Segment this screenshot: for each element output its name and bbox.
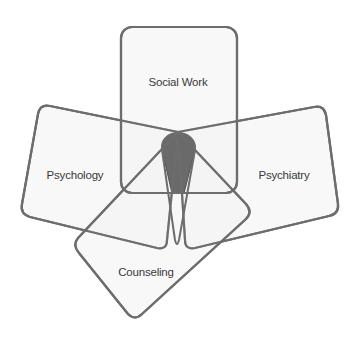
- label-social-work: Social Work: [149, 76, 208, 88]
- label-psychiatry: Psychiatry: [258, 169, 309, 181]
- label-psychology: Psychology: [47, 169, 104, 181]
- label-counseling: Counseling: [118, 266, 174, 278]
